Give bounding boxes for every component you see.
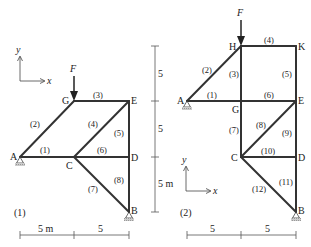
node-label-d: D <box>131 152 138 163</box>
dim-label: 5 <box>158 68 163 79</box>
member-label: (2) <box>30 119 40 129</box>
force-label: F <box>236 7 244 18</box>
member-label: (6) <box>97 145 107 155</box>
member-label: (3) <box>93 90 103 100</box>
axis-y-label: y <box>15 44 21 55</box>
node-label-c: C <box>66 160 73 171</box>
force-arrow-icon-1: F <box>69 63 78 101</box>
axis-x-label: x <box>212 185 218 196</box>
member-label: (1) <box>207 90 217 100</box>
horizontal-dimension-1: 5 m 5 <box>20 223 129 239</box>
node-label-k: K <box>298 41 306 52</box>
axis-icon-2: y x <box>181 154 218 196</box>
dim-label: 5 m <box>38 223 54 234</box>
member-label: (4) <box>88 119 98 129</box>
node-label-d: D <box>298 152 305 163</box>
node-label-c: C <box>231 152 238 163</box>
dim-label: 5 <box>210 223 215 234</box>
diagram-id-label: (2) <box>180 207 192 219</box>
horizontal-dimension-2: 5 5 <box>187 223 296 239</box>
member-label: (8) <box>114 175 124 185</box>
member-label: (10) <box>261 146 275 156</box>
member-label: (5) <box>114 128 124 138</box>
force-arrow-icon-2: F <box>236 7 245 46</box>
node-label-g: G <box>62 95 69 106</box>
member-label: (11) <box>279 177 293 187</box>
truss-diagrams: y x (1) (2) (3) (4) (5) (6) (7) (8) F A … <box>0 0 311 247</box>
axis-y-label: y <box>181 154 187 165</box>
truss-1: y x (1) (2) (3) (4) (5) (6) (7) (8) F A … <box>10 44 138 239</box>
node-label-h: H <box>229 41 236 52</box>
dim-label: 5 <box>158 123 163 134</box>
member-label: (8) <box>256 120 266 130</box>
member-label: (5) <box>282 69 292 79</box>
truss-2: (1) (2) (3) (4) (5) (6) (7) (8) (9) (10)… <box>177 7 306 239</box>
member-label: (12) <box>252 184 266 194</box>
node-label-b: B <box>298 205 305 216</box>
node-label-a: A <box>177 95 185 106</box>
member-label: (6) <box>264 90 274 100</box>
dim-label: 5 <box>265 223 270 234</box>
member-label: (4) <box>264 35 274 45</box>
member-label: (3) <box>229 69 239 79</box>
axis-icon-1: y x <box>15 44 52 86</box>
member-label: (2) <box>202 65 212 75</box>
node-label-a: A <box>10 151 18 162</box>
member-label: (7) <box>88 184 98 194</box>
node-label-e: E <box>131 95 137 106</box>
node-label-g: G <box>232 104 239 115</box>
member-label: (7) <box>229 125 239 135</box>
member-label: (1) <box>40 145 50 155</box>
dim-label: 5 m <box>158 178 174 189</box>
member-label: (9) <box>282 128 292 138</box>
force-label: F <box>69 63 77 74</box>
node-label-e: E <box>298 95 304 106</box>
node-label-b: B <box>131 205 138 216</box>
diagram-id-label: (1) <box>14 207 26 219</box>
vertical-dimension: 5 5 5 m <box>151 46 174 212</box>
axis-x-label: x <box>46 75 52 86</box>
dim-label: 5 <box>98 223 103 234</box>
